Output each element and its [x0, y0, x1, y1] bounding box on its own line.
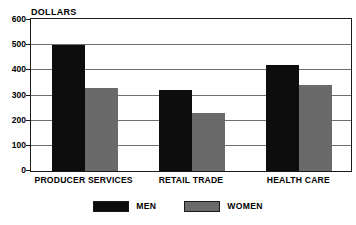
legend-item-men: MEN: [93, 201, 156, 212]
y-tick-600: 600: [0, 15, 30, 24]
legend-item-women: WOMEN: [184, 201, 262, 212]
y-tick-label: 500: [0, 40, 26, 49]
y-tick-100: 100: [0, 141, 30, 150]
chart-title: DOLLARS: [31, 7, 77, 17]
y-tick-label: 400: [0, 65, 26, 74]
y-tick-label: 100: [0, 141, 26, 150]
x-axis-label-retail-trade: RETAIL TRADE: [137, 175, 244, 185]
y-tick-label: 600: [0, 15, 26, 24]
plot-inner: [31, 19, 351, 171]
y-tick-mark: [26, 120, 30, 121]
legend-swatch-men-icon: [93, 201, 129, 212]
bar-women-retail-trade: [192, 113, 225, 171]
legend-label-men: MEN: [136, 201, 156, 211]
chart-legend: MEN WOMEN: [0, 198, 356, 214]
bar-men-producer-services: [52, 45, 85, 171]
plot-area: [30, 18, 352, 172]
y-tick-label: 300: [0, 91, 26, 100]
bar-men-health-care: [266, 65, 299, 171]
legend-label-women: WOMEN: [227, 201, 262, 211]
y-tick-mark: [26, 170, 30, 171]
y-tick-label: 200: [0, 116, 26, 125]
bar-men-retail-trade: [159, 90, 192, 171]
y-tick-500: 500: [0, 40, 30, 49]
y-tick-label: 0: [0, 166, 26, 175]
y-tick-mark: [26, 69, 30, 70]
y-tick-mark: [26, 44, 30, 45]
y-tick-200: 200: [0, 116, 30, 125]
y-tick-300: 300: [0, 91, 30, 100]
bar-women-producer-services: [85, 88, 118, 171]
x-axis-label-health-care: HEALTH CARE: [245, 175, 352, 185]
x-axis-label-producer-services: PRODUCER SERVICES: [30, 175, 137, 185]
bar-chart: DOLLARS 0100200300400500600 PRODUCER SER…: [0, 0, 356, 225]
bar-women-health-care: [299, 85, 332, 171]
y-tick-mark: [26, 145, 30, 146]
y-tick-mark: [26, 95, 30, 96]
y-tick-0: 0: [0, 166, 30, 175]
y-tick-mark: [26, 19, 30, 20]
legend-swatch-women-icon: [184, 201, 220, 212]
y-tick-400: 400: [0, 65, 30, 74]
